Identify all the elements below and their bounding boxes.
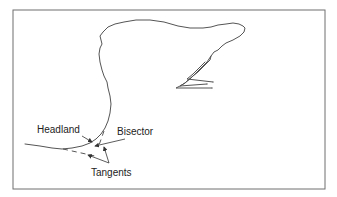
headland-label: Headland: [37, 124, 80, 135]
coastline-diagram: Headland Bisector Tangents: [0, 0, 337, 197]
tangents-arrow-left: [88, 155, 109, 163]
tangent-line-lower: [63, 149, 95, 156]
headland-arrow: [82, 136, 92, 142]
tangents-label: Tangents: [91, 167, 132, 178]
bisector-label: Bisector: [117, 126, 154, 137]
tangents-arrow-right: [104, 147, 109, 163]
coastline-bay: [187, 62, 213, 82]
figure-frame: [13, 10, 325, 189]
